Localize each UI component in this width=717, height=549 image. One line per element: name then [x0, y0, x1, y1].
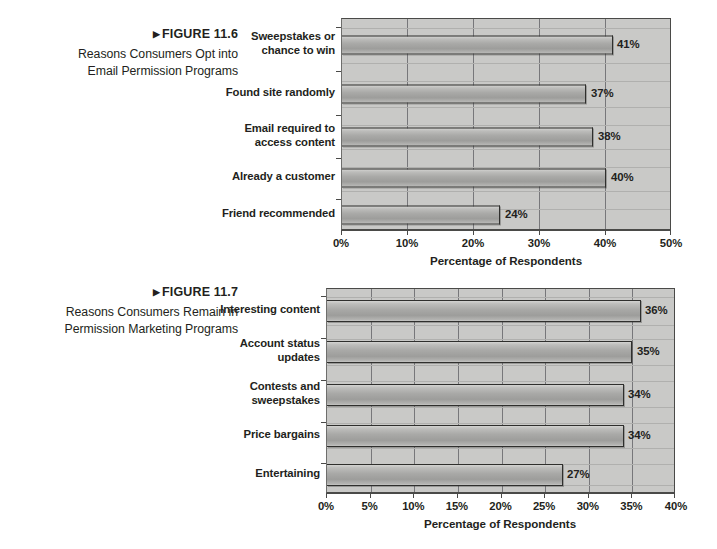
band-separator: [342, 191, 670, 192]
figure-caption-text: Reasons Consumers Opt into Email Permiss…: [20, 46, 238, 81]
band-separator: [342, 63, 670, 64]
bar-entertaining: [327, 464, 563, 486]
bar-already-a-customer: [342, 169, 606, 188]
bar-email-required: [342, 128, 593, 147]
band-separator: [327, 325, 674, 326]
y-tick: [336, 71, 341, 72]
bar-value-contests-and-sweepstakes: 34%: [628, 388, 651, 400]
category-label-friend-recommended: Friend recommended: [222, 207, 335, 221]
y-tick: [321, 422, 326, 423]
bar-account-status-updates: [327, 341, 632, 363]
x-axis: 0% 5% 10% 15% 20% 25% 30% 35% 40%: [326, 493, 675, 494]
triangle-marker-icon: ▶: [153, 29, 160, 39]
band-separator: [327, 339, 674, 340]
plot-area: [326, 288, 675, 493]
x-tick-label-15: 15%: [446, 500, 468, 512]
band-separator: [342, 28, 670, 29]
x-tick-label-30: 30%: [528, 237, 550, 249]
category-label-price-bargains: Price bargains: [244, 428, 320, 442]
y-tick: [336, 27, 341, 28]
category-label-email-required: Email required to access content: [244, 122, 335, 150]
y-tick: [336, 199, 341, 200]
band-separator: [327, 365, 674, 366]
category-label-entertaining: Entertaining: [255, 467, 320, 481]
y-tick: [321, 380, 326, 381]
x-tick-label-0: 0%: [318, 500, 334, 512]
figure-caption-heading: ▶FIGURE 11.7: [20, 284, 238, 302]
bar-found-site-randomly: [342, 85, 586, 104]
category-label-interesting-content: Interesting content: [220, 303, 320, 317]
bar-value-already-a-customer: 40%: [611, 171, 634, 183]
bar-interesting-content: [327, 300, 641, 322]
bar-value-entertaining: 27%: [567, 468, 590, 480]
figure-caption: ▶FIGURE 11.6 Reasons Consumers Opt into …: [20, 26, 238, 81]
x-axis: 0% 10% 20% 30% 40% 50%: [341, 230, 671, 231]
band-separator: [327, 423, 674, 424]
y-tick: [321, 296, 326, 297]
y-tick: [321, 338, 326, 339]
figure-caption-text: Reasons Consumers Remain in Permission M…: [20, 304, 238, 339]
y-tick: [321, 463, 326, 464]
figure-11-7: ▶FIGURE 11.7 Reasons Consumers Remain in…: [0, 272, 717, 549]
category-label-contests-and-sweepstakes: Contests and sweepstakes: [250, 380, 320, 408]
x-tick-label-20: 20%: [462, 237, 484, 249]
x-tick-label-35: 35%: [620, 500, 642, 512]
band-separator: [327, 381, 674, 382]
category-label-found-site-randomly: Found site randomly: [226, 86, 335, 100]
caption-line-2: Email Permission Programs: [20, 63, 238, 80]
band-separator: [342, 149, 670, 150]
figure-number: FIGURE 11.7: [162, 285, 238, 299]
y-tick: [336, 158, 341, 159]
x-tick-label-25: 25%: [533, 500, 555, 512]
bar-contests-and-sweepstakes: [327, 384, 624, 406]
figure-number: FIGURE 11.6: [162, 27, 238, 41]
x-tick-label-10: 10%: [402, 500, 424, 512]
x-tick-label-10: 10%: [396, 237, 418, 249]
figure-caption-heading: ▶FIGURE 11.6: [20, 26, 238, 44]
y-tick: [336, 115, 341, 116]
x-axis-title: Percentage of Respondents: [430, 254, 582, 267]
bar-price-bargains: [327, 425, 624, 447]
caption-line-1: Reasons Consumers Remain in: [20, 304, 238, 321]
x-tick-label-50: 50%: [660, 237, 682, 249]
x-tick-label-40: 40%: [594, 237, 616, 249]
bar-value-found-site-randomly: 37%: [591, 87, 614, 99]
caption-line-2: Permission Marketing Programs: [20, 321, 238, 338]
bar-value-price-bargains: 34%: [628, 429, 651, 441]
bar-value-account-status-updates: 35%: [637, 345, 660, 357]
triangle-marker-icon: ▶: [153, 287, 160, 297]
bar-sweepstakes: [342, 36, 613, 55]
band-separator: [342, 125, 670, 126]
band-separator: [342, 107, 670, 108]
category-label-sweepstakes: Sweepstakes or chance to win: [251, 30, 335, 58]
figure-caption: ▶FIGURE 11.7 Reasons Consumers Remain in…: [20, 284, 238, 339]
caption-line-1: Reasons Consumers Opt into: [20, 46, 238, 63]
category-label-already-a-customer: Already a customer: [232, 170, 335, 184]
bar-value-friend-recommended: 24%: [505, 208, 528, 220]
x-tick-label-40: 40%: [665, 500, 687, 512]
bar-value-sweepstakes: 41%: [617, 38, 640, 50]
figure-11-6: ▶FIGURE 11.6 Reasons Consumers Opt into …: [0, 0, 717, 275]
category-label-account-status-updates: Account status updates: [240, 337, 320, 365]
band-separator: [342, 81, 670, 82]
x-tick-label-0: 0%: [333, 237, 349, 249]
x-tick-label-20: 20%: [489, 500, 511, 512]
bar-friend-recommended: [342, 206, 500, 225]
band-separator: [327, 448, 674, 449]
x-tick-label-30: 30%: [577, 500, 599, 512]
x-tick-label-5: 5%: [362, 500, 378, 512]
bar-value-email-required: 38%: [598, 130, 621, 142]
band-separator: [327, 297, 674, 298]
band-separator: [327, 407, 674, 408]
bar-value-interesting-content: 36%: [645, 304, 668, 316]
x-axis-title: Percentage of Respondents: [424, 517, 576, 530]
